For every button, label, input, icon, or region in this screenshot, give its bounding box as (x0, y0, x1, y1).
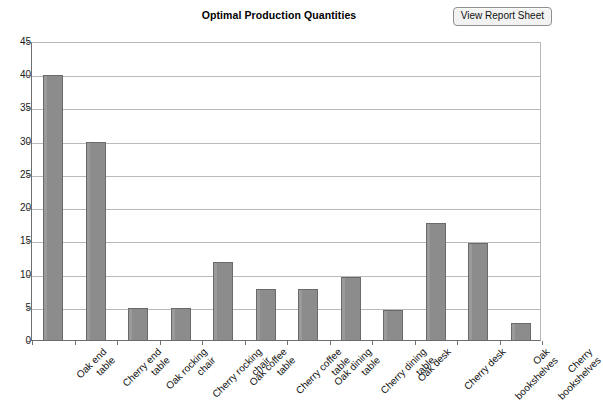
bar-highlight (214, 263, 217, 340)
bar (341, 277, 361, 341)
x-tick-mark (32, 341, 33, 345)
bar-highlight (87, 143, 90, 340)
bar (383, 310, 403, 341)
x-tick-label: Oakbookshelves (505, 346, 561, 402)
x-tick-mark (245, 341, 246, 345)
x-tick-label: Cherry desk (462, 346, 508, 392)
bar-highlight (129, 309, 132, 340)
y-axis: 051015202530354045 (0, 42, 31, 341)
bar (213, 262, 233, 341)
x-tick-mark (202, 341, 203, 345)
x-axis-labels: Oak endtableCherry endtableOak rockingch… (0, 346, 558, 418)
x-tick-label: Cherrybookshelves (547, 346, 603, 402)
x-tick-mark (500, 341, 501, 345)
bar-series (32, 42, 541, 341)
bar-highlight (257, 290, 260, 340)
bar-highlight (384, 311, 387, 340)
y-tick-mark (27, 341, 31, 342)
x-tick-mark (457, 341, 458, 345)
x-tick-label: Cherry endtable (120, 346, 171, 397)
x-tick-mark (372, 341, 373, 345)
x-tick-mark (75, 341, 76, 345)
bar-highlight (172, 309, 175, 340)
bar-highlight (44, 76, 47, 340)
x-tick-mark (117, 341, 118, 345)
x-tick-mark (330, 341, 331, 345)
x-tick-label-line: Cherry desk (462, 346, 508, 392)
bar (128, 308, 148, 341)
x-tick-mark (287, 341, 288, 345)
x-tick-label: Oak endtable (74, 346, 117, 389)
x-tick-mark (415, 341, 416, 345)
bar (43, 75, 63, 341)
bar-highlight (427, 224, 430, 340)
bar (426, 223, 446, 341)
bar (171, 308, 191, 341)
bar-highlight (342, 278, 345, 340)
bar-highlight (299, 290, 302, 340)
bar (256, 289, 276, 341)
bar-highlight (512, 324, 515, 340)
bar (468, 243, 488, 341)
x-tick-mark (160, 341, 161, 345)
bar-highlight (469, 244, 472, 340)
bar (511, 323, 531, 341)
view-report-sheet-button[interactable]: View Report Sheet (453, 7, 552, 26)
bar (86, 142, 106, 341)
bar (298, 289, 318, 341)
x-tick-mark (542, 341, 543, 345)
